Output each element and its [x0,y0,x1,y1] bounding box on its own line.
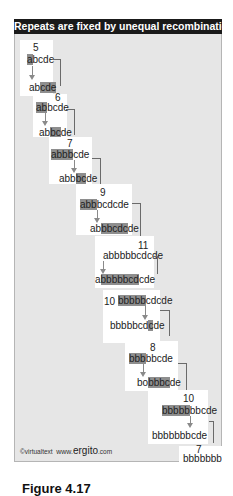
arrow-down-icon [143,364,144,373]
figure-title: Repeats are fixed by unequal recombinati… [14,19,222,34]
panel-7-count: 8 [150,342,156,353]
panel-6-count: 10 [104,296,115,307]
connector-bracket [92,158,101,186]
arrow-down-icon [190,416,191,424]
panel-6-top-seq: bbbbbcdcde [118,295,173,306]
panel-8-top-seq: bbbbbbbcde [162,405,217,416]
connector-bracket [209,421,214,443]
panel-5-bottom-seq: abbbbbcdcde [95,274,155,285]
arrow-down-icon [145,306,146,316]
panel-3-top-seq: abbbcde [51,149,89,160]
panel-1-count: 5 [33,42,39,53]
panel-4-count: 9 [100,187,106,198]
connector-bracket [66,109,75,135]
panel-3-count: 7 [67,138,73,149]
figure-caption: Figure 4.17 [22,481,91,496]
arrow-down-icon [103,261,104,270]
connector-bracket [132,203,141,239]
panel-4-top-seq: abbbcdcde [80,199,129,210]
connector-bracket [52,59,61,86]
panel-8-count: 10 [183,393,194,404]
arrow-down-icon [45,113,46,122]
connector-bracket [160,310,170,336]
connector-bracket [153,256,158,274]
panel-7-top-seq: bbbbbcde [129,353,173,364]
copyright-footer: ©virtualtext www.ergito.com [20,445,112,456]
panel-7-bottom-seq: bobbbcde [137,377,181,388]
panel-8-bottom-seq: bbbbbbbcde [152,430,207,441]
connector-bracket [178,363,187,393]
panel-2-top-seq: abbcde [36,102,69,113]
arrow-down-icon [97,210,98,219]
panel-6-bottom-seq: bbbbbcdcde [110,320,165,331]
arrow-down-icon [32,66,33,76]
arrow-down-icon [74,160,75,169]
panel-1-top-seq: abcde [27,54,54,65]
panel-9-top-seq: bbbbbbb [183,453,222,464]
